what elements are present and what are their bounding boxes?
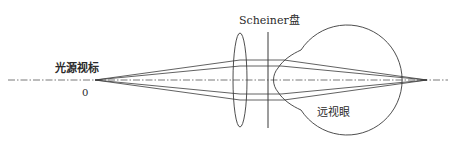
scheiner-disc-label: Scheiner盘 [239,15,300,26]
source-label: 光源视标 [55,63,99,74]
eye-label: 远视眼 [317,107,350,118]
source-position-label: 0 [82,88,88,98]
